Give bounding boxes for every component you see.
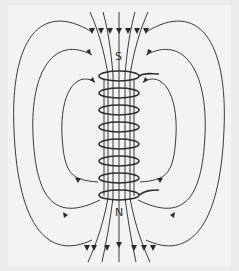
diagram-frame: S N: [0, 0, 239, 271]
field-line-outer-left-2: [33, 49, 100, 208]
north-pole-label: N: [115, 206, 123, 219]
coil-lead-top: [139, 74, 159, 77]
coil-lead-bottom: [139, 190, 159, 195]
field-line-outer-right-3: [140, 79, 176, 182]
south-pole-label: S: [115, 50, 122, 63]
solenoid-field-diagram: S N: [0, 0, 239, 271]
field-line-outer-left-1: [14, 21, 92, 246]
field-line-outer-right-1: [146, 21, 224, 246]
field-line-outer-left-3: [62, 79, 98, 182]
